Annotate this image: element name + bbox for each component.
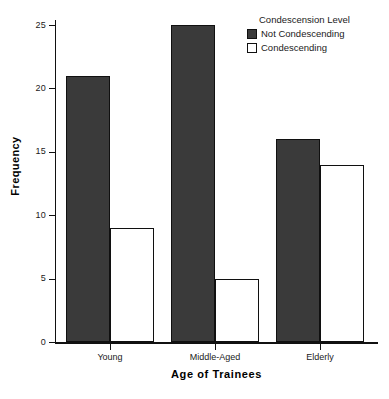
legend-label-not-condescending: Not Condescending [261,28,344,40]
y-tick-label-0: 0 [6,338,46,347]
bar-middle-aged-condescending [215,279,259,342]
legend-item-not-condescending: Not Condescending [247,28,387,40]
x-axis-title: Age of Trainees [55,368,378,380]
legend-swatch-filled-icon [247,29,257,39]
bar-elderly-condescending [320,165,364,343]
y-tick-label-20: 20 [6,84,46,93]
x-axis-line [55,342,378,344]
legend-label-condescending: Condescending [261,42,327,54]
x-tick-mark-young [110,343,111,350]
y-tick-mark-15 [49,152,56,153]
y-tick-mark-20 [49,88,56,89]
bar-young-condescending [110,228,154,342]
legend-title: Condescension Level [259,14,387,26]
y-tick-mark-0 [49,342,56,343]
bar-elderly-not-condescending [276,139,320,342]
y-tick-mark-5 [49,279,56,280]
y-tick-mark-25 [49,25,56,26]
bar-young-not-condescending [66,76,110,342]
caption-strip [0,388,389,399]
legend-swatch-outline-icon [247,43,257,53]
x-tick-mark-elderly [320,343,321,350]
x-tick-label-young: Young [60,352,160,362]
bar-middle-aged-not-condescending [171,25,215,342]
y-axis-title: Frequency [9,111,21,221]
y-tick-label-5: 5 [6,274,46,283]
y-tick-label-10: 10 [6,211,46,220]
x-tick-label-middle-aged: Middle-Aged [165,352,265,362]
bar-chart: Frequency 0 5 10 15 20 25 Young Middle-A… [0,0,389,399]
y-axis-line [55,20,56,342]
y-tick-mark-10 [49,215,56,216]
y-tick-label-15: 15 [6,147,46,156]
legend-item-condescending: Condescending [247,42,387,54]
legend: Condescension Level Not Condescending Co… [247,14,387,54]
x-tick-label-elderly: Elderly [270,352,370,362]
x-tick-mark-middle-aged [215,343,216,350]
y-tick-label-25: 25 [6,21,46,30]
